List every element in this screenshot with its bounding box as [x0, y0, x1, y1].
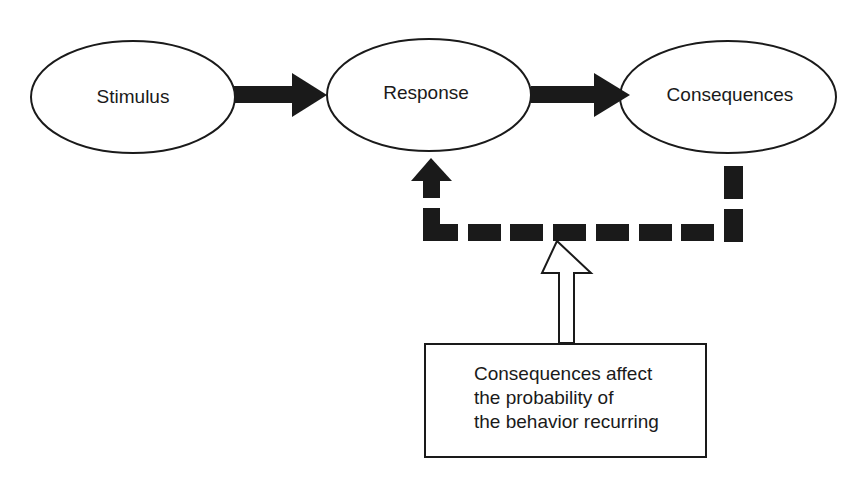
response-label: Response [383, 82, 469, 104]
consequences-label: Consequences [667, 84, 794, 106]
note-line-3: the behavior recurring [474, 411, 659, 433]
feedback-loop-dashed-arrow [411, 158, 743, 242]
explanation-note-box: Consequences affect the probability of t… [424, 343, 707, 458]
arrow-response-to-consequences [531, 73, 630, 117]
note-pointer-hollow-arrow [542, 241, 591, 343]
arrow-stimulus-to-response [234, 73, 327, 117]
note-line-1: Consequences affect [474, 363, 652, 385]
stimulus-label: Stimulus [97, 86, 170, 108]
note-line-2: the probability of [474, 387, 613, 409]
